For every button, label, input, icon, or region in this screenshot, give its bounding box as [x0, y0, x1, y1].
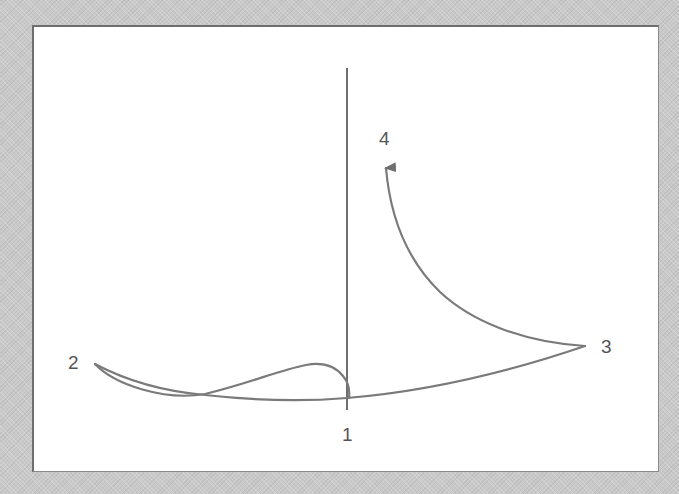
path-segment-3-to-4 [386, 168, 585, 346]
point-label-4: 4 [379, 129, 390, 148]
point-label-2: 2 [68, 353, 79, 372]
point-label-3: 3 [601, 337, 612, 356]
point-label-1: 1 [342, 425, 353, 444]
trajectory-diagram [0, 0, 679, 494]
